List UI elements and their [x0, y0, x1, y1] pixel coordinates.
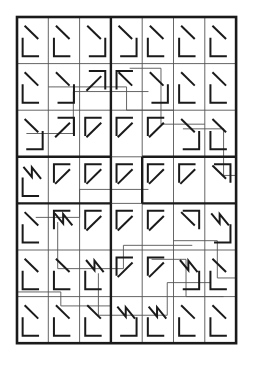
- puzzle-figure: [0, 0, 253, 369]
- puzzle-grid-canvas: [0, 0, 253, 369]
